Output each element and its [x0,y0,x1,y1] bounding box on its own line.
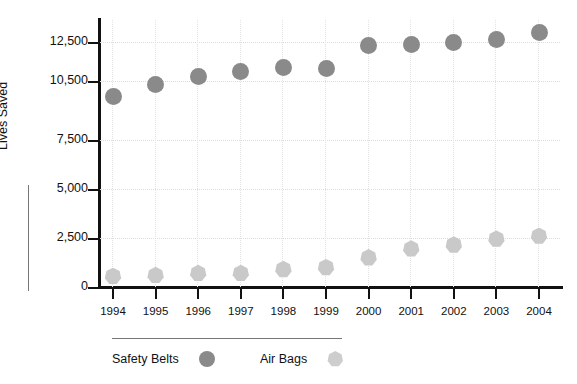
legend-divider [112,338,342,339]
legend-label: Air Bags [260,352,307,366]
data-point [445,236,462,253]
y-axis-tick-label: 5,000 [24,182,88,194]
y-axis-tick [88,287,99,289]
y-axis-tick-label-wrap: 5,000 [20,182,88,194]
x-axis-tick [112,289,114,299]
y-axis-tick [88,81,99,83]
circle-marker-icon [199,351,215,367]
data-point [403,36,420,53]
x-axis-tick [155,289,157,299]
data-point [531,228,548,245]
y-axis-tick-label-wrap: 12,500 [20,35,88,47]
data-point [360,249,377,266]
y-axis-tick-label-wrap: 7,500 [20,133,88,145]
y-axis-tick-label-wrap: 10,500 [20,74,88,86]
legend-item[interactable]: Safety Belts [112,348,215,370]
data-point [105,88,122,105]
data-point [531,24,548,41]
data-point [105,268,122,285]
data-point [275,261,292,278]
data-point [318,60,335,77]
data-point [232,265,249,282]
x-axis-tick [410,289,412,299]
y-axis-tick-label: 12,500 [24,35,88,47]
x-axis-tick [240,289,242,299]
chart-canvas: Lives Saved 02,5005,0007,50010,50012,500… [0,0,577,384]
y-axis-tick [88,140,99,142]
data-point [147,267,164,284]
chart-legend: Safety BeltsAir Bags [112,348,442,370]
data-point [360,37,377,54]
x-axis-tick [538,289,540,299]
y-axis-tick-label-wrap: 0 [20,280,88,292]
y-axis-tick-label-wrap: 2,500 [20,231,88,243]
data-point [147,76,164,93]
legend-label: Safety Belts [112,352,179,366]
data-point [403,240,420,257]
data-point [445,34,462,51]
x-axis-tick [495,289,497,299]
data-point [488,31,505,48]
data-point [318,259,335,276]
x-axis-tick [368,289,370,299]
y-axis-title: Lives Saved [0,82,10,150]
x-axis-tick [325,289,327,299]
x-axis-tick-label: 2004 [514,305,564,317]
y-axis-tick [88,189,99,191]
data-point [488,230,505,247]
y-axis-tick-label: 0 [24,280,88,292]
data-point [190,68,207,85]
y-axis-tick-label: 2,500 [24,231,88,243]
x-axis-tick [282,289,284,299]
x-axis-tick [453,289,455,299]
heptagon-marker-icon [327,351,343,367]
y-axis-tick-label: 10,500 [24,74,88,86]
y-axis-tick [88,238,99,240]
legend-item[interactable]: Air Bags [260,348,343,370]
y-axis-tick-label: 7,500 [24,133,88,145]
y-axis-tick [88,42,99,44]
x-axis-tick [197,289,199,299]
plot-area [100,20,560,287]
data-point [232,63,249,80]
data-point [275,59,292,76]
data-point [190,265,207,282]
